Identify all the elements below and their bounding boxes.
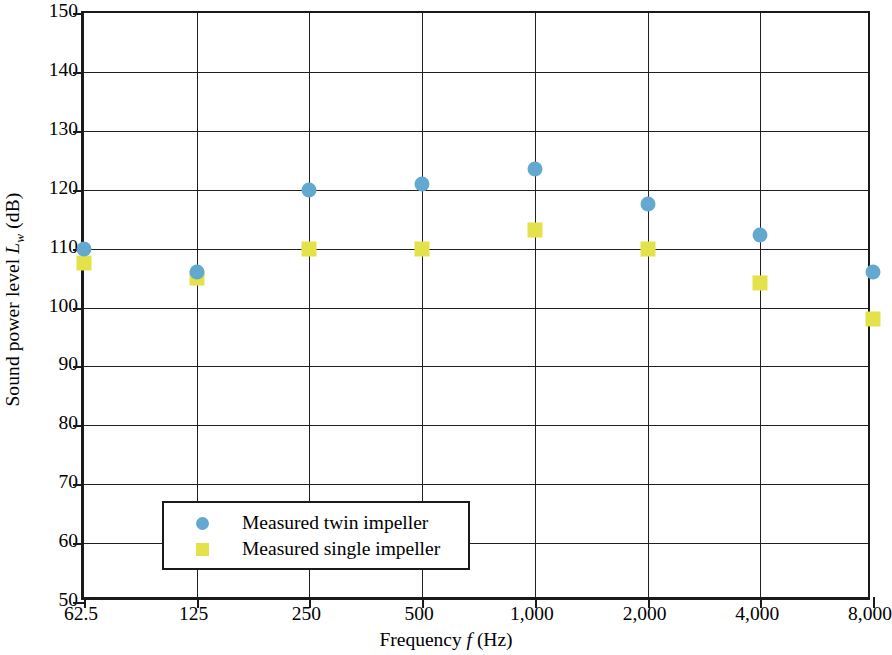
y-axis-tick-mark (73, 190, 84, 192)
y-axis-tick-label: 70 (32, 472, 78, 492)
data-point-marker (415, 176, 430, 191)
data-point-marker (753, 275, 768, 290)
y-axis-tick-mark (73, 13, 84, 15)
y-axis-tick-labels: 1501401301201101009080706050 (32, 0, 78, 600)
data-point-marker (77, 241, 92, 256)
y-axis-title-subscript: w (12, 234, 27, 243)
x-axis-tick-label: 2,000 (623, 604, 667, 624)
legend-marker-square-icon (196, 543, 209, 556)
data-point-marker (415, 241, 430, 256)
gridline-vertical (535, 13, 536, 597)
data-point-marker (527, 222, 542, 237)
y-axis-tick-mark (73, 543, 84, 545)
x-axis-title-prefix: Frequency (379, 629, 466, 650)
y-axis-title: Sound power level Lw (dB) (0, 0, 30, 600)
y-axis-tick-label: 100 (32, 296, 78, 316)
y-axis-tick-mark (73, 308, 84, 310)
y-axis-tick-label: 60 (32, 531, 78, 551)
data-point-marker (302, 241, 317, 256)
legend-label: Measured twin impeller (242, 513, 428, 533)
y-axis-tick-mark (73, 366, 84, 368)
data-point-marker (77, 256, 92, 271)
gridline-horizontal (84, 249, 868, 250)
data-point-marker (753, 228, 768, 243)
gridline-horizontal (84, 131, 868, 132)
data-point-marker (640, 241, 655, 256)
gridline-horizontal (84, 190, 868, 191)
legend-row: Measured single impeller (164, 536, 468, 562)
y-axis-tick-label: 140 (32, 60, 78, 80)
data-point-marker (189, 265, 204, 280)
gridline-horizontal (84, 72, 868, 73)
x-axis-title: Frequency f (Hz) (0, 629, 892, 651)
gridline-horizontal (84, 366, 868, 367)
y-axis-tick-label: 80 (32, 414, 78, 434)
y-axis-tick-mark (73, 425, 84, 427)
y-axis-title-suffix: (dB) (2, 193, 23, 234)
legend-row: Measured twin impeller (164, 510, 468, 536)
gridline-horizontal (84, 308, 868, 309)
y-axis-tick-label: 120 (32, 178, 78, 198)
data-point-marker (527, 162, 542, 177)
y-axis-tick-label: 110 (32, 237, 78, 257)
y-axis-tick-mark (73, 72, 84, 74)
x-axis-tick-label: 62.5 (64, 604, 98, 624)
x-axis-tick-label: 1,000 (510, 604, 554, 624)
x-axis-tick-label: 125 (179, 604, 208, 624)
x-axis-tick-label: 250 (292, 604, 321, 624)
x-axis-title-suffix: (Hz) (472, 629, 513, 650)
y-axis-tick-label: 90 (32, 355, 78, 375)
y-axis-tick-label: 130 (32, 119, 78, 139)
legend-label: Measured single impeller (242, 539, 440, 559)
x-axis-tick-label: 500 (405, 604, 434, 624)
data-point-marker (302, 182, 317, 197)
data-point-marker (866, 265, 881, 280)
y-axis-tick-mark (73, 131, 84, 133)
data-point-marker (866, 312, 881, 327)
x-axis-tick-label: 4,000 (735, 604, 779, 624)
gridline-horizontal (84, 484, 868, 485)
y-axis-title-text: Sound power level Lw (dB) (2, 193, 27, 407)
data-point-marker (640, 197, 655, 212)
gridline-vertical (648, 13, 649, 597)
y-axis-title-symbol: L (2, 243, 23, 254)
y-axis-tick-label: 150 (32, 1, 78, 21)
gridline-vertical (760, 13, 761, 597)
chart-figure: Sound power level Lw (dB) 15014013012011… (0, 0, 892, 655)
y-axis-tick-mark (73, 484, 84, 486)
gridline-horizontal (84, 425, 868, 426)
legend-marker-circle-icon (196, 517, 209, 530)
chart-legend: Measured twin impellerMeasured single im… (162, 501, 470, 570)
x-axis-tick-label: 8,000 (848, 604, 892, 624)
y-axis-title-prefix: Sound power level (2, 254, 23, 407)
